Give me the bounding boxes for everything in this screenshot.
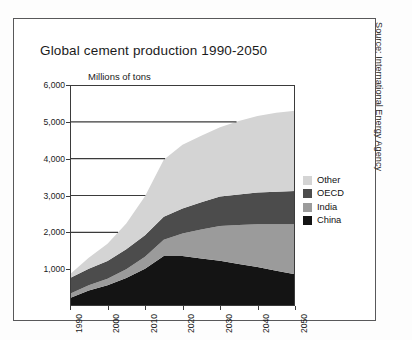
legend-label: India	[317, 203, 337, 212]
legend-label: OECD	[317, 189, 344, 198]
legend-item-china[interactable]: China	[303, 215, 344, 227]
gridlines	[70, 85, 295, 306]
y-axis-unit-label: Millions of tons	[88, 71, 151, 82]
y-tick-label: 2,000	[31, 227, 65, 237]
legend-label: Other	[317, 176, 340, 185]
x-tick-mark	[220, 306, 221, 310]
legend-swatch-icon	[303, 189, 312, 198]
x-tick-label: 2030	[224, 314, 234, 333]
figure-canvas: Global cement production 1990-2050 Milli…	[0, 0, 412, 340]
y-tick-mark	[66, 122, 70, 123]
x-tick-label: 2010	[149, 314, 159, 333]
legend-label: China	[317, 216, 341, 225]
plot-area	[70, 85, 295, 306]
y-tick-label: 4,000	[31, 154, 65, 164]
x-tick-mark	[295, 306, 296, 310]
x-tick-mark	[258, 306, 259, 310]
x-tick-mark	[145, 306, 146, 310]
x-tick-mark	[108, 306, 109, 310]
y-tick-mark	[66, 232, 70, 233]
y-tick-label: 6,000	[31, 80, 65, 90]
y-tick-label: 1,000	[31, 264, 65, 274]
chart-legend: OtherOECDIndiaChina	[303, 175, 344, 228]
x-tick-mark	[183, 306, 184, 310]
x-tick-label: 2040	[261, 314, 271, 333]
legend-swatch-icon	[303, 203, 312, 212]
x-tick-label: 2050	[299, 314, 309, 333]
y-tick-label: 3,000	[31, 191, 65, 201]
legend-swatch-icon	[303, 176, 312, 185]
y-tick-mark	[66, 85, 70, 86]
page-title: Global cement production 1990-2050	[40, 43, 267, 58]
x-tick-label: 2020	[186, 314, 196, 333]
x-tick-mark	[70, 306, 71, 310]
chart-frame: Global cement production 1990-2050 Milli…	[13, 18, 376, 321]
y-tick-label: 5,000	[31, 117, 65, 127]
legend-item-oecd[interactable]: OECD	[303, 188, 344, 200]
x-tick-label: 2000	[111, 314, 121, 333]
source-attribution: Source: International Energy Agency	[374, 22, 384, 171]
y-tick-mark	[66, 159, 70, 160]
y-tick-mark	[66, 196, 70, 197]
legend-item-india[interactable]: India	[303, 201, 344, 213]
legend-swatch-icon	[303, 216, 312, 225]
y-tick-mark	[66, 269, 70, 270]
x-tick-label: 1990	[74, 314, 84, 333]
legend-item-other[interactable]: Other	[303, 175, 344, 187]
